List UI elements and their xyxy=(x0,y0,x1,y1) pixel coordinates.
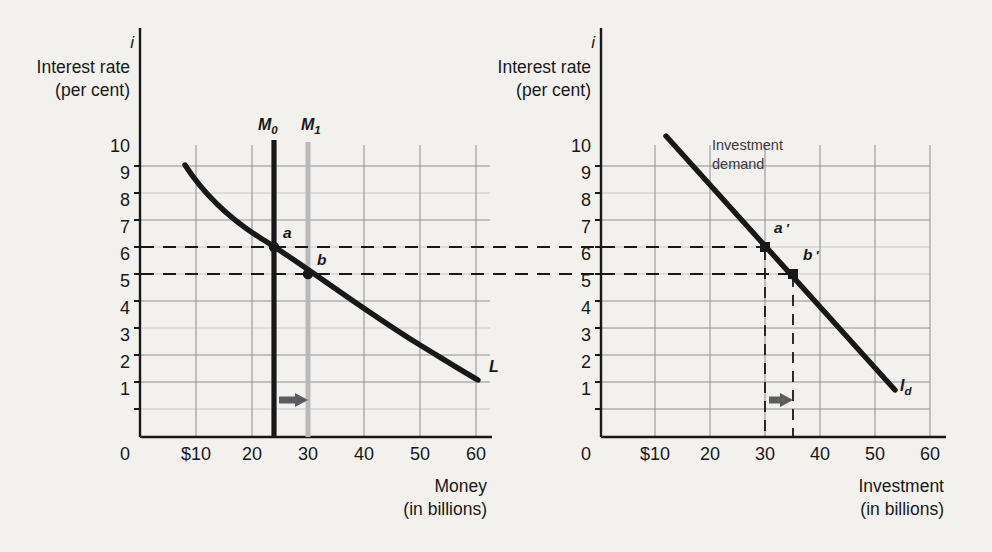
x-tick-label-right-5: 60 xyxy=(920,444,940,464)
x-tick-label-right-4: 50 xyxy=(865,444,885,464)
y-axis-title-line2-right: (per cent) xyxy=(516,80,591,100)
point-marker-a xyxy=(269,242,279,252)
y-axis-title-line1-right: Interest rate xyxy=(498,57,591,77)
economics-figure: i Interest rate (per cent) 10 9 8 7 6 5 … xyxy=(0,0,992,552)
y-tick-label-right-8: 2 xyxy=(581,352,591,372)
y-tick-label-left-1: 9 xyxy=(120,163,130,183)
figure-canvas: i Interest rate (per cent) 10 9 8 7 6 5 … xyxy=(0,0,992,552)
point-label-b: b xyxy=(317,251,327,268)
y-axis-title-line2-left: (per cent) xyxy=(55,80,130,100)
y-tick-label-left-5: 5 xyxy=(120,271,130,291)
y-tick-label-right-1: 9 xyxy=(581,163,591,183)
y-tick-label-left-0: 10 xyxy=(110,136,130,156)
x-axis-title-line1-left: Money xyxy=(434,476,487,496)
y-tick-label-right-4: 6 xyxy=(581,244,591,264)
y-tick-label-right-3: 7 xyxy=(581,217,591,237)
x-tick-label-right-0: $10 xyxy=(640,444,670,464)
paper-background xyxy=(0,0,992,552)
annotation-investment-demand-line1: Investment xyxy=(712,137,783,153)
y-tick-label-right-7: 3 xyxy=(581,325,591,345)
point-marker-b-prime xyxy=(788,269,798,279)
y-tick-label-left-3: 7 xyxy=(120,217,130,237)
x-tick-label-left-5: 60 xyxy=(466,444,486,464)
y-tick-label-right-9: 1 xyxy=(581,379,591,399)
point-label-b-prime: b′ xyxy=(803,246,819,263)
x-tick-label-right-1: 20 xyxy=(700,444,720,464)
y-tick-label-right-10: 0 xyxy=(581,444,591,464)
y-tick-label-right-2: 8 xyxy=(581,190,591,210)
point-marker-a-prime xyxy=(760,242,770,252)
x-tick-label-left-0: $10 xyxy=(181,444,211,464)
y-axis-title-line1-left: Interest rate xyxy=(37,57,130,77)
x-tick-label-left-2: 30 xyxy=(298,444,318,464)
point-label-a-prime: a′ xyxy=(774,219,790,236)
annotation-investment-demand-line2: demand xyxy=(712,156,764,172)
point-marker-b xyxy=(303,269,313,279)
y-tick-label-right-6: 4 xyxy=(581,298,591,318)
y-tick-label-right-0: 10 xyxy=(571,136,591,156)
point-label-a: a xyxy=(283,224,292,241)
y-tick-label-left-7: 3 xyxy=(120,325,130,345)
y-tick-label-left-10: 0 xyxy=(120,444,130,464)
y-tick-label-left-8: 2 xyxy=(120,352,130,372)
x-tick-label-right-3: 40 xyxy=(810,444,830,464)
x-tick-label-right-2: 30 xyxy=(755,444,775,464)
x-axis-title-line2-right: (in billions) xyxy=(860,499,944,519)
x-axis-title-line1-right: Investment xyxy=(858,476,944,496)
x-axis-title-line2-left: (in billions) xyxy=(403,499,487,519)
x-tick-label-left-3: 40 xyxy=(354,444,374,464)
curve-label-L: L xyxy=(489,358,499,375)
y-tick-label-left-6: 4 xyxy=(120,298,130,318)
x-tick-label-left-1: 20 xyxy=(242,444,262,464)
y-tick-label-right-5: 5 xyxy=(581,271,591,291)
y-tick-label-left-2: 8 xyxy=(120,190,130,210)
y-tick-label-left-4: 6 xyxy=(120,244,130,264)
y-tick-label-left-9: 1 xyxy=(120,379,130,399)
x-tick-label-left-4: 50 xyxy=(410,444,430,464)
